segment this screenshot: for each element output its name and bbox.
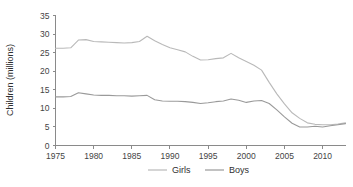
x-tick-label: 1985 [122, 151, 141, 161]
y-axis: 05101520253035 [40, 11, 55, 151]
x-tick-label: 1990 [161, 151, 180, 161]
series-lines [56, 36, 346, 127]
y-axis-title: Children (millions) [5, 44, 15, 116]
legend-label-girls[interactable]: Girls [172, 165, 191, 175]
x-tick-label: 2000 [237, 151, 256, 161]
y-tick-label: 10 [40, 103, 50, 113]
y-tick-label: 30 [40, 29, 50, 39]
y-tick-label: 20 [40, 66, 50, 76]
legend-label-boys[interactable]: Boys [229, 165, 250, 175]
series-line-boys [56, 93, 346, 127]
chart-legend: GirlsBoys [148, 165, 250, 175]
x-tick-label: 2005 [275, 151, 294, 161]
x-tick-label: 2010 [313, 151, 332, 161]
y-tick-label: 25 [40, 48, 50, 58]
x-axis: 19751980198519901995200020052010 [46, 146, 345, 161]
x-tick-label: 1980 [84, 151, 103, 161]
chart-canvas: 05101520253035 1975198019851990199520002… [0, 0, 353, 187]
series-line-girls [56, 36, 346, 124]
y-tick-label: 5 [45, 122, 50, 132]
x-tick-label: 1995 [199, 151, 218, 161]
y-tick-label: 0 [45, 141, 50, 151]
y-tick-label: 15 [40, 85, 50, 95]
line-chart: 05101520253035 1975198019851990199520002… [0, 0, 353, 187]
y-tick-label: 35 [40, 11, 50, 21]
x-tick-label: 1975 [46, 151, 65, 161]
